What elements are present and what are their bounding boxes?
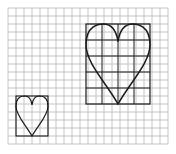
grid-diagram (0, 0, 176, 154)
